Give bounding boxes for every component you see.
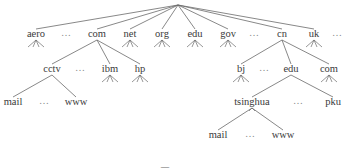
node-edu: edu	[187, 28, 203, 39]
root-edges	[36, 5, 314, 29]
node-mail-tsinghua: mail	[209, 129, 228, 140]
node-cn: cn	[277, 28, 288, 39]
ellipsis: …	[39, 95, 49, 106]
domain-tree-diagram: aero … com net org edu gov … cn uk … cct…	[0, 0, 347, 168]
figure-caption: 图 …	[0, 163, 347, 168]
node-net: net	[124, 28, 137, 39]
node-edu-cn: edu	[283, 63, 299, 74]
ellipsis: …	[332, 27, 342, 38]
tsinghua-edges	[218, 108, 283, 130]
cctv-edges	[13, 75, 76, 97]
ellipsis: …	[293, 95, 303, 106]
ellipsis: …	[259, 62, 269, 73]
node-tsinghua: tsinghua	[234, 96, 270, 107]
ellipsis: …	[245, 128, 255, 139]
node-com: com	[88, 28, 106, 39]
ellipsis: …	[249, 27, 259, 38]
node-uk: uk	[309, 28, 320, 39]
node-www-cctv: www	[65, 96, 88, 107]
ellipsis: …	[75, 62, 85, 73]
node-ibm: ibm	[102, 63, 118, 74]
node-aero: aero	[27, 28, 45, 39]
node-mail-cctv: mail	[4, 96, 23, 107]
com-edges	[52, 40, 140, 64]
third-level-labels: mail … www tsinghua … pku	[4, 95, 342, 107]
fourth-level-labels: mail … www	[209, 128, 295, 140]
node-com-cn: com	[320, 63, 338, 74]
second-level-labels: cctv … ibm hp bj … edu com	[43, 62, 338, 74]
node-pku: pku	[325, 96, 342, 107]
node-www-tsinghua: www	[272, 129, 295, 140]
node-org: org	[155, 28, 170, 39]
caption-text: 图 …	[160, 164, 186, 168]
ellipsis: …	[61, 27, 71, 38]
node-gov: gov	[220, 28, 237, 39]
node-hp: hp	[135, 63, 146, 74]
tld-labels: aero … com net org edu gov … cn uk …	[27, 27, 342, 39]
edu-cn-edges	[252, 75, 333, 97]
node-bj: bj	[237, 63, 245, 74]
node-cctv: cctv	[43, 63, 61, 74]
